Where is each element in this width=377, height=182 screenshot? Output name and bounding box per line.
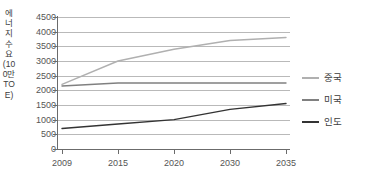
y-tick-mark xyxy=(53,105,57,106)
y-tick-label: 1500 xyxy=(16,101,56,110)
y-tick-label: 2000 xyxy=(16,86,56,95)
legend-item[interactable]: 인도 xyxy=(302,116,342,128)
y-tick-mark xyxy=(53,61,57,62)
legend-swatch-icon xyxy=(302,77,319,79)
y-tick-mark xyxy=(53,32,57,33)
y-tick-label: 2500 xyxy=(16,71,56,80)
series-line xyxy=(62,83,286,86)
x-tick-mark xyxy=(230,150,231,154)
y-tick-mark xyxy=(53,17,57,18)
y-tick-label: 4000 xyxy=(16,27,56,36)
y-tick-mark xyxy=(53,46,57,47)
y-tick-mark xyxy=(53,149,57,150)
y-tick-label: 4500 xyxy=(16,13,56,22)
y-tick-mark xyxy=(53,90,57,91)
x-tick-mark xyxy=(174,150,175,154)
legend-item-label: 미국 xyxy=(324,95,342,105)
series-line xyxy=(62,38,286,85)
energy-demand-line-chart: 에너지 수요(100만TOE) 050010001500200025003000… xyxy=(0,0,377,182)
y-tick-mark xyxy=(53,134,57,135)
y-tick-label: 0 xyxy=(16,145,56,154)
y-tick-label: 500 xyxy=(16,130,56,139)
x-tick-label: 2009 xyxy=(52,158,72,168)
x-tick-mark xyxy=(286,150,287,154)
y-tick-label: 1000 xyxy=(16,115,56,124)
legend-item[interactable]: 중국 xyxy=(302,72,342,84)
x-tick-mark xyxy=(118,150,119,154)
x-tick-label: 2020 xyxy=(164,158,184,168)
legend-swatch-icon xyxy=(302,99,319,101)
x-tick-label: 2030 xyxy=(220,158,240,168)
legend-item-label: 인도 xyxy=(324,117,342,127)
y-tick-label: 3000 xyxy=(16,57,56,66)
y-tick-mark xyxy=(53,120,57,121)
legend-swatch-icon xyxy=(302,121,319,123)
plot-area xyxy=(58,12,290,152)
x-tick-label: 2035 xyxy=(276,158,296,168)
legend-item[interactable]: 미국 xyxy=(302,94,342,106)
legend-item-label: 중국 xyxy=(324,73,342,83)
y-tick-label: 3500 xyxy=(16,42,56,51)
series-lines xyxy=(58,12,290,152)
x-tick-label: 2015 xyxy=(108,158,128,168)
chart-legend: 중국미국인도 xyxy=(302,72,374,130)
y-axis-tick-labels: 050010001500200025003000350040004500 xyxy=(14,0,56,182)
y-tick-mark xyxy=(53,76,57,77)
series-line xyxy=(62,104,286,129)
x-tick-mark xyxy=(62,150,63,154)
